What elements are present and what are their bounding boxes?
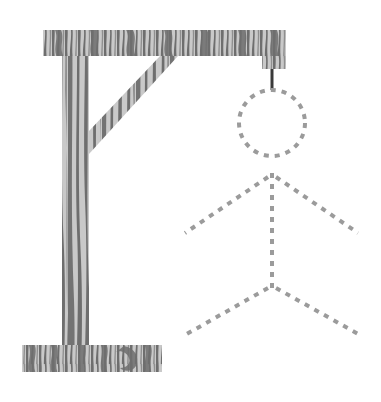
gallows-top-beam — [43, 28, 286, 58]
gallows-brace — [89, 56, 178, 154]
gallows-beam-end-block — [262, 56, 286, 69]
gallows — [22, 28, 286, 374]
figure-head — [239, 90, 305, 156]
gallows-base — [22, 343, 162, 374]
figure-left-leg — [185, 288, 268, 335]
hangman-scene — [0, 0, 381, 402]
figure-right-leg — [276, 288, 360, 335]
gallows-post — [62, 30, 89, 360]
figure-left-arm — [185, 177, 268, 233]
figure-right-arm — [276, 177, 358, 233]
stick-figure — [185, 90, 360, 335]
hangman-illustration: Hangman drawing: a wooden gallows on the… — [0, 0, 381, 402]
